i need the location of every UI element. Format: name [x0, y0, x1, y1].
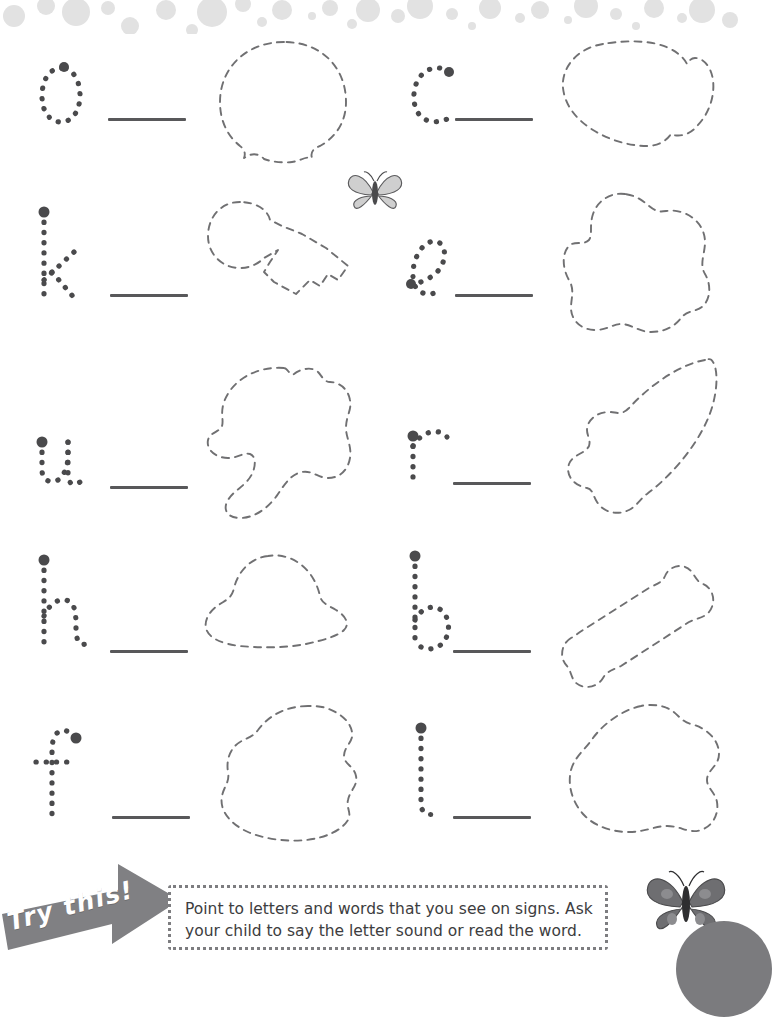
decorative-bubble — [391, 9, 405, 23]
decorative-bubble — [322, 0, 338, 16]
worksheet-row — [0, 34, 742, 184]
decorative-bubble — [356, 0, 380, 22]
decorative-bubble — [574, 0, 598, 18]
decorative-bubble — [257, 17, 267, 27]
picture-outline-key — [198, 184, 368, 354]
decorative-bubble — [446, 8, 458, 20]
decorative-bubble — [677, 13, 687, 23]
decorative-bubble — [62, 0, 90, 26]
decorative-bubble — [479, 0, 501, 19]
exercise-cell-h — [0, 524, 371, 694]
picture-outline-blob — [547, 184, 737, 354]
decorative-bubble — [644, 0, 664, 18]
trace-letter-c[interactable] — [399, 34, 469, 184]
decorative-bubble — [101, 1, 115, 15]
decorative-bubble — [632, 22, 640, 30]
decorative-bubble — [531, 1, 549, 19]
picture-outline-fish — [202, 694, 372, 854]
worksheet-row — [0, 354, 742, 524]
exercise-cell-l — [371, 694, 742, 854]
exercise-cell-u — [0, 354, 371, 524]
decorative-bubble — [407, 0, 433, 19]
trace-letter-r[interactable] — [399, 354, 469, 524]
decorative-bubble — [272, 0, 292, 20]
writing-line[interactable] — [110, 650, 188, 653]
writing-line[interactable] — [455, 294, 533, 297]
writing-line[interactable] — [453, 482, 531, 485]
trace-letter-f[interactable] — [28, 694, 98, 854]
writing-line[interactable] — [453, 816, 531, 819]
decorative-bubble — [156, 0, 176, 20]
decorative-bubble — [197, 0, 227, 27]
tip-text: Point to letters and words that you see … — [185, 898, 597, 942]
exercise-cell-k — [0, 184, 371, 354]
picture-outline-umbrella — [194, 354, 374, 524]
decorative-bubble — [722, 12, 738, 28]
picture-outline-bone — [549, 524, 739, 694]
decorative-bubble — [515, 13, 525, 23]
decorative-bubble — [468, 22, 476, 30]
picture-outline-hat — [196, 524, 366, 694]
exercise-cell-c — [371, 34, 742, 184]
trace-letter-h[interactable] — [28, 524, 98, 694]
decorative-bubble — [235, 0, 251, 12]
writing-line[interactable] — [110, 486, 188, 489]
decorative-bubble — [121, 17, 139, 34]
decorative-bubble — [610, 8, 622, 20]
butterfly-top-decoration — [344, 166, 406, 218]
trace-letter-b[interactable] — [399, 524, 469, 694]
decorative-bubble — [37, 0, 55, 15]
exercise-cell-f — [0, 694, 371, 854]
corner-circle-decoration — [676, 921, 772, 1017]
writing-line[interactable] — [112, 816, 190, 819]
picture-outline-leaf — [557, 694, 737, 854]
decorative-bubble — [564, 16, 572, 24]
decorative-bubble — [308, 12, 316, 20]
decorative-bubble — [347, 19, 357, 29]
top-decorative-dot-band — [0, 0, 742, 34]
picture-outline-balloon — [200, 34, 360, 184]
decorative-bubble — [186, 24, 198, 34]
writing-line[interactable] — [455, 118, 533, 121]
tip-box: Point to letters and words that you see … — [168, 885, 608, 950]
trace-letter-l[interactable] — [399, 694, 469, 854]
picture-outline-cloud — [547, 34, 737, 184]
exercise-cell-e — [371, 184, 742, 354]
trace-letter-o[interactable] — [28, 34, 98, 184]
picture-outline-rocket — [541, 354, 731, 524]
trace-letter-u[interactable] — [28, 354, 98, 524]
trace-letter-k[interactable] — [28, 184, 98, 354]
exercise-cell-r — [371, 354, 742, 524]
decorative-bubble — [689, 0, 715, 23]
worksheet-row — [0, 694, 742, 854]
writing-line[interactable] — [108, 118, 186, 121]
trace-letter-e[interactable] — [399, 184, 469, 354]
worksheet-grid — [0, 34, 742, 854]
decorative-bubble — [3, 5, 25, 27]
worksheet-row — [0, 524, 742, 694]
writing-line[interactable] — [453, 650, 531, 653]
writing-line[interactable] — [110, 294, 188, 297]
exercise-cell-b — [371, 524, 742, 694]
exercise-cell-o — [0, 34, 371, 184]
